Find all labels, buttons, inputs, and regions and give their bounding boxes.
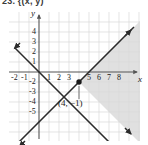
intersection-point-label: (4, −1) xyxy=(58,99,83,108)
y-tick-label--2: -2 xyxy=(29,78,36,86)
x-axis-label: x xyxy=(138,75,142,84)
x-tick-label-2: 2 xyxy=(57,74,61,82)
x-tick-label-5: 5 xyxy=(87,74,91,82)
line-increasing-arrow-lower-left xyxy=(20,141,26,145)
y-tick-label--3: -3 xyxy=(29,88,36,96)
y-tick-label-1: 1 xyxy=(32,58,36,66)
y-tick-label--5: -5 xyxy=(29,108,36,116)
x-tick-label-7: 7 xyxy=(107,74,111,82)
graph-figure: 23. {(x, y) xyxy=(0,0,148,145)
y-tick-label--4: -4 xyxy=(29,98,36,106)
x-tick-label--2: -2 xyxy=(11,74,18,82)
x-tick-label-8: 8 xyxy=(117,74,121,82)
intersection-point-marker xyxy=(76,79,81,84)
x-tick-label-1: 1 xyxy=(47,74,51,82)
y-tick-label-3: 3 xyxy=(32,38,36,46)
x-tick-label-3: 3 xyxy=(67,74,71,82)
y-axis-label: y xyxy=(31,9,35,18)
x-tick-label-6: 6 xyxy=(97,74,101,82)
x-tick-label--1: -1 xyxy=(21,74,28,82)
y-tick-label-2: 2 xyxy=(32,48,36,56)
y-tick-label-4: 4 xyxy=(32,28,36,36)
